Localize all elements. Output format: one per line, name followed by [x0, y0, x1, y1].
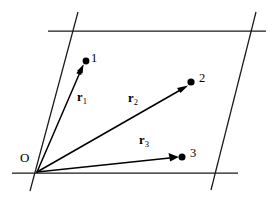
vector-r3-label-subscript: 3: [145, 139, 149, 149]
point-1-dot: [83, 58, 90, 65]
vector-r3-label-symbol: r: [139, 133, 145, 147]
vector-r1: [37, 65, 84, 173]
left-slanted-line: [30, 12, 78, 191]
point-2-dot: [187, 78, 194, 85]
vector-r2-label: r2: [128, 92, 138, 106]
right-slanted-line: [211, 12, 256, 190]
vector-r2-label-subscript: 2: [134, 97, 138, 107]
vector-diagram-figure: O 1 2 3 r1 r2 r3: [0, 0, 273, 209]
vector-r1-label: r1: [77, 91, 87, 105]
vector-r3: [37, 153, 179, 172]
point-1-label: 1: [91, 52, 97, 65]
vector-r3-label: r3: [139, 134, 149, 148]
point-3-label: 3: [190, 147, 196, 160]
point-2-label: 2: [199, 72, 205, 85]
vector-r3-arrowhead: [169, 153, 179, 162]
point-3-dot: [179, 154, 186, 161]
vector-r1-shaft: [37, 70, 81, 172]
vector-r1-label-symbol: r: [77, 90, 83, 104]
vector-r2-arrowhead: [177, 86, 188, 94]
vector-r1-label-subscript: 1: [83, 96, 87, 106]
origin-label: O: [20, 151, 29, 164]
vector-r2-label-symbol: r: [128, 91, 134, 105]
